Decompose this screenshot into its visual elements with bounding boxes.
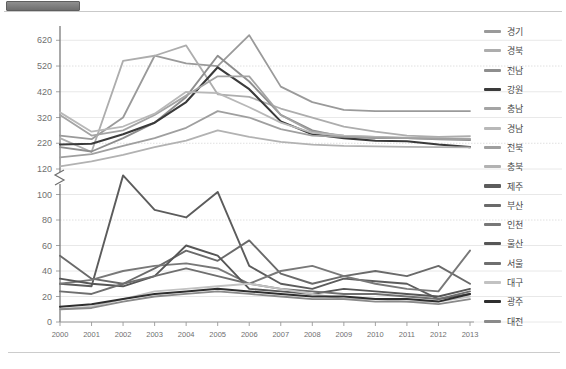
x-axis-tick-label: 2006	[241, 330, 258, 339]
top-divider	[4, 11, 562, 12]
legend-label: 충북	[507, 160, 523, 173]
legend-swatch-icon	[484, 300, 501, 303]
legend-item-부산[interactable]: 부산	[484, 196, 564, 215]
legend-item-강원[interactable]: 강원	[484, 80, 564, 99]
legend-swatch-icon	[484, 88, 501, 91]
y-axis-tick-label: 420	[37, 87, 52, 97]
legend-swatch-icon	[484, 242, 501, 245]
legend-label: 부산	[507, 199, 523, 212]
y-axis-tick-label: 220	[37, 138, 52, 148]
x-axis-tick-label: 2010	[367, 330, 384, 339]
x-axis-tick-label: 2011	[399, 330, 415, 339]
legend-label: 서울	[507, 257, 523, 270]
legend-item-제주[interactable]: 제주	[484, 176, 564, 195]
y-axis-tick-label: 520	[37, 61, 52, 71]
legend-label: 대전	[507, 315, 523, 328]
series-line-제주[interactable]	[60, 175, 470, 299]
legend-label: 인천	[507, 218, 523, 231]
legend-swatch-icon	[484, 262, 501, 265]
line-chart-plot: 0204060801001202203204205206202000200120…	[0, 14, 566, 352]
x-axis-tick-label: 2001	[83, 330, 100, 339]
series-line-충남[interactable]	[60, 76, 470, 139]
y-axis-tick-label: 120	[37, 164, 52, 174]
legend-item-울산[interactable]: 울산	[484, 234, 564, 253]
y-axis-tick-label: 0	[47, 317, 52, 327]
legend-swatch-icon	[484, 184, 501, 187]
y-axis-tick-label: 100	[37, 190, 52, 200]
chart-svg: 0204060801001202203204205206202000200120…	[0, 14, 566, 352]
legend-swatch-icon	[484, 49, 501, 52]
legend-item-경북[interactable]: 경북	[484, 41, 564, 60]
legend-item-전남[interactable]: 전남	[484, 61, 564, 80]
legend-swatch-icon	[484, 165, 501, 168]
legend-item-전북[interactable]: 전북	[484, 138, 564, 157]
legend-label: 전북	[507, 141, 523, 154]
legend-label: 광주	[507, 295, 523, 308]
legend-label: 경남	[507, 122, 523, 135]
legend-swatch-icon	[484, 281, 501, 284]
legend-label: 울산	[507, 237, 523, 250]
series-line-광주[interactable]	[60, 289, 470, 307]
legend-swatch-icon	[484, 204, 501, 207]
y-axis-tick-label: 40	[42, 266, 52, 276]
legend-swatch-icon	[484, 107, 501, 110]
legend-swatch-icon	[484, 223, 501, 226]
x-axis-tick-label: 2012	[430, 330, 447, 339]
legend-label: 강원	[507, 83, 523, 96]
y-axis-tick-label: 60	[42, 241, 52, 251]
legend-swatch-icon	[484, 127, 501, 130]
x-axis-tick-label: 2005	[209, 330, 226, 339]
x-axis-tick-label: 2013	[462, 330, 479, 339]
legend-label: 제주	[507, 180, 523, 193]
x-axis-tick-label: 2003	[146, 330, 163, 339]
legend-swatch-icon	[484, 320, 501, 323]
legend-label: 경기	[507, 25, 523, 38]
legend-swatch-icon	[484, 146, 501, 149]
y-axis-tick-label: 20	[42, 292, 52, 302]
x-axis-tick-label: 2009	[336, 330, 353, 339]
x-axis-tick-label: 2008	[304, 330, 321, 339]
x-axis-tick-label: 2000	[52, 330, 69, 339]
y-axis-tick-label: 320	[37, 113, 52, 123]
legend-swatch-icon	[484, 69, 501, 72]
x-axis-tick-label: 2004	[178, 330, 195, 339]
y-axis-tick-label: 80	[42, 215, 52, 225]
legend-item-대구[interactable]: 대구	[484, 273, 564, 292]
legend-label: 대구	[507, 276, 523, 289]
legend-label: 경북	[507, 44, 523, 57]
legend-item-충북[interactable]: 충북	[484, 157, 564, 176]
legend-item-대전[interactable]: 대전	[484, 311, 564, 330]
legend-item-광주[interactable]: 광주	[484, 292, 564, 311]
legend-item-충남[interactable]: 충남	[484, 99, 564, 118]
window-tab-bar[interactable]	[6, 1, 80, 11]
chart-legend: 경기경북전남강원충남경남전북충북제주부산인천울산서울대구광주대전	[484, 22, 564, 331]
y-axis-tick-label: 620	[37, 35, 52, 45]
bottom-divider	[8, 352, 560, 353]
chart-page: 0204060801001202203204205206202000200120…	[0, 0, 566, 369]
x-axis-tick-label: 2007	[272, 330, 289, 339]
legend-label: 충남	[507, 102, 523, 115]
legend-swatch-icon	[484, 30, 501, 33]
legend-item-경남[interactable]: 경남	[484, 118, 564, 137]
legend-label: 전남	[507, 64, 523, 77]
legend-item-경기[interactable]: 경기	[484, 22, 564, 41]
legend-item-인천[interactable]: 인천	[484, 215, 564, 234]
x-axis-tick-label: 2002	[115, 330, 132, 339]
legend-item-서울[interactable]: 서울	[484, 254, 564, 273]
